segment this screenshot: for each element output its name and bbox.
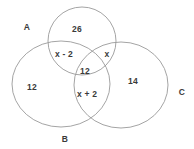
- region-value-b-and-c: x + 2: [77, 90, 97, 99]
- region-value-a-only: 26: [72, 25, 82, 34]
- region-value-a-and-b: x - 2: [55, 50, 73, 59]
- set-label-b: B: [62, 135, 68, 144]
- region-value-a-and-c: x: [105, 50, 110, 59]
- set-label-a: A: [24, 23, 30, 32]
- venn-diagram: A B C 26 x - 2 x 12 x + 2 12 14: [0, 0, 194, 149]
- set-c-ellipse: [74, 42, 168, 128]
- region-value-a-and-b-and-c: 12: [80, 67, 90, 76]
- region-value-c-only: 14: [128, 77, 138, 86]
- region-value-b-only: 12: [27, 83, 37, 92]
- set-label-c: C: [179, 88, 185, 97]
